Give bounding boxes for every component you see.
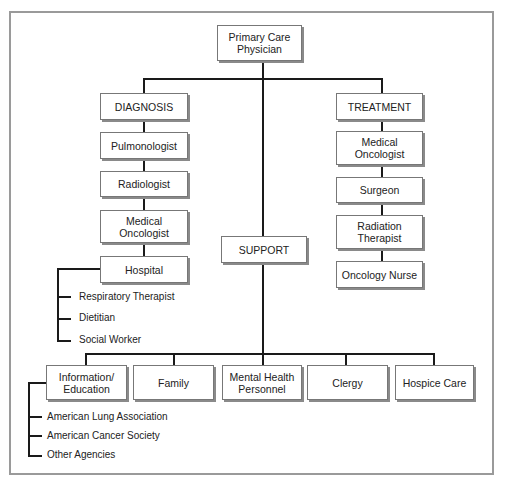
node-treatment-surgeon: Surgeon [336, 177, 423, 203]
connector [85, 353, 87, 365]
node-primary-care-physician: Primary Care Physician [217, 25, 302, 61]
connector [143, 78, 145, 93]
connector [28, 382, 46, 384]
information-subitem-other-agencies: Other Agencies [47, 449, 115, 461]
node-treatment-oncology-nurse: Oncology Nurse [336, 261, 423, 288]
connector [57, 318, 71, 320]
information-subitem-american-lung-association: American Lung Association [47, 411, 168, 423]
connector [57, 340, 71, 342]
node-treatment-radiation-therapist: Radiation Therapist [336, 215, 423, 249]
connector [143, 159, 145, 171]
connector [262, 353, 264, 365]
connector [143, 243, 145, 256]
connector [57, 268, 59, 341]
node-support-clergy: Clergy [307, 365, 388, 400]
node-support-mental-health-personnel: Mental Health Personnel [222, 365, 302, 400]
connector [143, 120, 145, 132]
node-support-family: Family [133, 365, 214, 400]
connector [85, 353, 435, 355]
node-diagnosis-radiologist: Radiologist [100, 171, 188, 197]
node-treatment: TREATMENT [336, 93, 423, 120]
information-subitem-american-cancer-society: American Cancer Society [47, 430, 160, 442]
node-diagnosis: DIAGNOSIS [100, 93, 188, 120]
connector [28, 416, 42, 418]
connector [345, 353, 347, 365]
node-diagnosis-hospital: Hospital [100, 256, 188, 283]
hospital-subitem-dietitian: Dietitian [79, 312, 115, 324]
node-support-information-education: Information/ Education [46, 365, 127, 400]
connector [381, 119, 383, 131]
connector [28, 455, 42, 457]
connector [262, 60, 264, 356]
node-diagnosis-pulmonologist: Pulmonologist [100, 132, 188, 159]
connector [381, 165, 383, 177]
connector [381, 203, 383, 215]
node-diagnosis-medical-oncologist: Medical Oncologist [100, 210, 188, 243]
connector [433, 353, 435, 365]
connector [28, 382, 30, 457]
node-support: SUPPORT [221, 236, 307, 263]
connector [28, 435, 42, 437]
connector [173, 353, 175, 365]
node-treatment-medical-oncologist: Medical Oncologist [336, 131, 423, 165]
connector [381, 78, 383, 93]
connector [143, 197, 145, 210]
connector [57, 296, 71, 298]
connector [57, 268, 100, 270]
node-support-hospice-care: Hospice Care [395, 365, 474, 400]
connector [143, 78, 383, 80]
connector [381, 249, 383, 261]
hospital-subitem-social-worker: Social Worker [79, 334, 141, 346]
hospital-subitem-respiratory-therapist: Respiratory Therapist [79, 291, 174, 303]
